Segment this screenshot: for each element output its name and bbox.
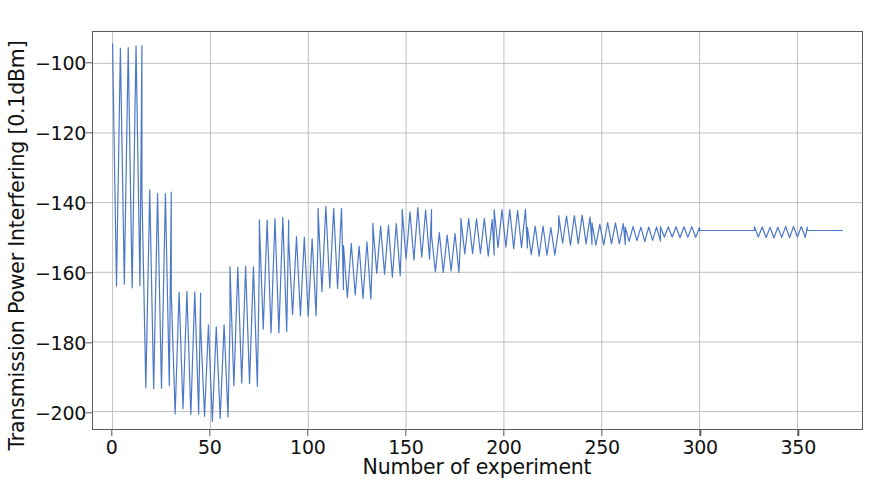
y-tick-mark-group	[0, 31, 92, 430]
x-axis-label: Number of experiment	[92, 455, 862, 479]
plot-canvas	[93, 32, 862, 429]
chart-figure: Transmission Power Interfering [0.1dBm] …	[0, 0, 885, 491]
plot-area	[92, 31, 863, 430]
data-series-line	[113, 44, 843, 421]
